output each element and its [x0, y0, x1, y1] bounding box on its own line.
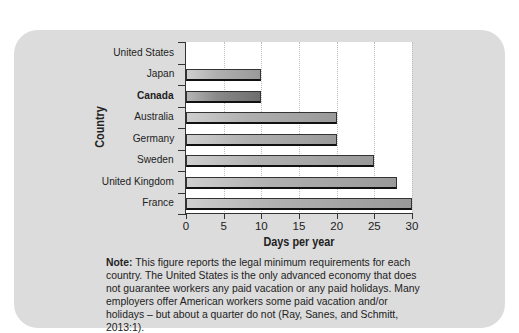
y-tick-label: France	[142, 196, 174, 208]
x-tick	[299, 213, 300, 219]
note-text: This figure reports the legal minimum re…	[106, 256, 420, 333]
x-tick	[337, 213, 338, 219]
gridline	[412, 42, 413, 214]
x-tick	[261, 213, 262, 219]
bar	[186, 69, 261, 81]
y-tick	[178, 214, 186, 215]
y-tick	[178, 107, 186, 108]
bar	[186, 198, 412, 210]
x-tick	[186, 213, 187, 219]
x-tick-label: 15	[287, 220, 311, 232]
figure-note: Note: This figure reports the legal mini…	[106, 256, 426, 333]
y-tick-label: Germany	[132, 132, 174, 144]
x-tick	[412, 213, 413, 219]
bar	[186, 134, 337, 146]
bar	[186, 155, 374, 167]
y-tick-label: United Kingdom	[102, 175, 174, 187]
bar	[186, 177, 397, 189]
y-tick-label: United States	[113, 46, 174, 58]
y-axis-title: Country	[93, 100, 107, 154]
x-tick-label: 30	[400, 220, 424, 232]
y-tick-label: Canada	[137, 89, 174, 101]
y-tick	[178, 193, 186, 194]
y-tick	[178, 64, 186, 65]
y-tick-label: Japan	[146, 67, 174, 79]
y-tick	[178, 42, 186, 43]
y-tick-label: Sweden	[137, 153, 174, 165]
y-tick	[178, 85, 186, 86]
bar	[186, 112, 337, 124]
x-tick-label: 0	[174, 220, 198, 232]
bar	[186, 91, 261, 103]
x-tick-label: 20	[325, 220, 349, 232]
x-tick	[224, 213, 225, 219]
x-tick-label: 5	[212, 220, 236, 232]
y-tick-label: Australia	[135, 110, 174, 122]
x-axis-title: Days per year	[197, 235, 400, 249]
y-tick	[178, 171, 186, 172]
note-label: Note:	[106, 256, 133, 268]
y-tick	[178, 150, 186, 151]
x-tick	[374, 213, 375, 219]
x-tick-label: 25	[362, 220, 386, 232]
y-tick	[178, 128, 186, 129]
x-tick-label: 10	[249, 220, 273, 232]
